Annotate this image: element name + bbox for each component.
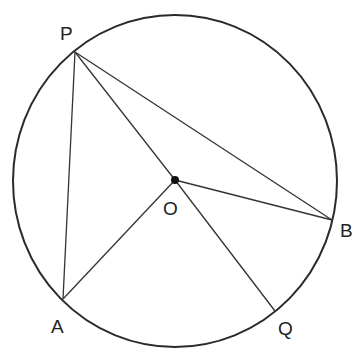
label-P: P — [60, 23, 73, 44]
segment-PA — [63, 52, 75, 299]
geometry-diagram: P O B A Q — [0, 0, 361, 356]
center-point-O — [171, 176, 179, 184]
label-O: O — [163, 198, 178, 219]
label-A: A — [51, 316, 64, 337]
label-Q: Q — [278, 318, 293, 339]
segment-PO — [75, 52, 175, 180]
segment-PB — [75, 52, 332, 220]
segment-OA — [63, 180, 175, 299]
segment-OB — [175, 180, 332, 220]
label-B: B — [340, 220, 353, 241]
segment-OQ — [175, 180, 275, 311]
